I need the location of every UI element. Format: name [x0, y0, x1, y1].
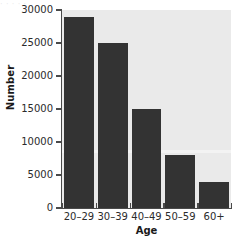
x-tick-mark [130, 203, 131, 209]
y-tick-label: 30000 [0, 5, 53, 15]
x-tick-mark [62, 203, 63, 209]
y-tick-mark [56, 9, 61, 10]
y-tick-label: 5000 [0, 170, 53, 180]
plot-panel [62, 10, 231, 208]
x-tick-mark [96, 203, 97, 209]
y-tick-mark [56, 42, 61, 43]
y-tick-mark [56, 141, 61, 142]
bar [132, 109, 162, 208]
x-tick-label: 60+ [197, 211, 231, 222]
x-tick-label: 40–49 [130, 211, 164, 222]
x-tick-label: 20–29 [62, 211, 96, 222]
y-tick-mark [56, 207, 61, 208]
x-tick-mark [163, 203, 164, 209]
x-tick-mark [197, 203, 198, 209]
y-tick-mark [56, 75, 61, 76]
x-axis-line [61, 208, 232, 209]
bar [199, 182, 229, 208]
bar [64, 17, 94, 208]
x-tick-label: 50–59 [163, 211, 197, 222]
bar-chart-figure: · · · · · Number 05000100001500020000250… [0, 0, 239, 242]
x-tick-label: 30–39 [96, 211, 130, 222]
y-tick-mark [56, 108, 61, 109]
bar [98, 43, 128, 208]
x-tick-mark [231, 203, 232, 209]
y-tick-label: 10000 [0, 137, 53, 147]
x-axis-title: Age [62, 225, 231, 236]
y-tick-label: 25000 [0, 38, 53, 48]
y-tick-label: 20000 [0, 71, 53, 81]
bar [165, 155, 195, 208]
y-tick-mark [56, 174, 61, 175]
y-tick-label: 15000 [0, 104, 53, 114]
y-axis-line [61, 9, 62, 209]
y-tick-label: 0 [0, 203, 53, 213]
